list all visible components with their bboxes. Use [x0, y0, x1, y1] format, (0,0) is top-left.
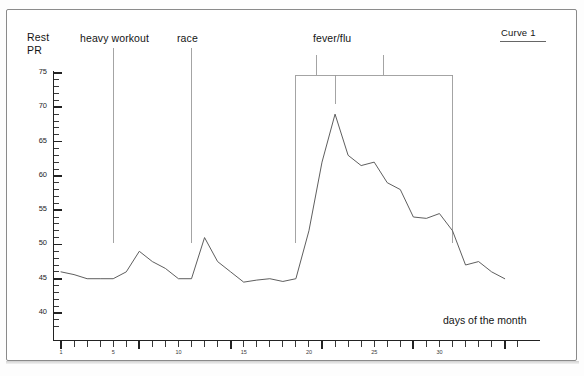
screenshot-stage: Rest PR heavy workout race fever/flu Cur… [0, 0, 584, 376]
annotation-label-race: race [177, 33, 198, 44]
y-tick-label: 50 [29, 239, 47, 247]
y-tick-label: 45 [29, 274, 47, 282]
x-tick-label: 30 [430, 350, 448, 356]
annotation-label-heavy-workout: heavy workout [80, 33, 149, 44]
x-tick-label: 20 [300, 350, 318, 356]
x-tick-label: 25 [365, 350, 383, 356]
x-tick-label: 5 [104, 350, 122, 356]
annotation-lines [113, 48, 452, 243]
x-tick-label: 15 [235, 350, 253, 356]
y-axis-title-line2: PR [27, 45, 42, 56]
y-tick-label: 55 [29, 205, 47, 213]
y-tick-label: 75 [29, 68, 47, 76]
y-axis [53, 71, 62, 340]
x-axis [53, 340, 540, 349]
legend-entry-curve-1: Curve 1 [501, 28, 536, 38]
y-tick-label: 40 [29, 308, 47, 316]
y-tick-label: 70 [29, 102, 47, 110]
y-axis-title-line1: Rest [27, 32, 49, 43]
y-tick-label: 65 [29, 137, 47, 145]
x-tick-label: 1 [52, 350, 70, 356]
x-tick-label: 10 [169, 350, 187, 356]
annotation-label-fever-flu: fever/flu [313, 33, 351, 44]
data-series [61, 114, 505, 282]
x-axis-title: days of the month [443, 315, 526, 326]
y-tick-label: 60 [29, 171, 47, 179]
